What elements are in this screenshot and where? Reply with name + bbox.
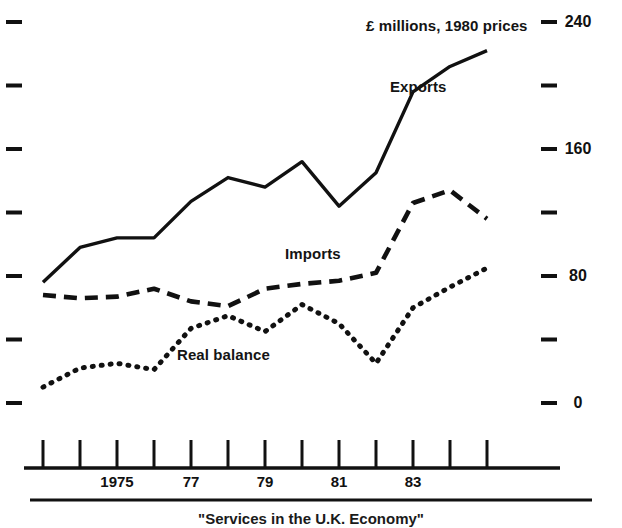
y-axis-label-160: 160 xyxy=(565,141,592,157)
x-axis xyxy=(24,440,560,468)
y-axis-label-0: 0 xyxy=(574,395,583,411)
x-axis-label-1981: 81 xyxy=(331,474,348,489)
units-label: £ millions, 1980 prices xyxy=(366,18,528,33)
chart-plot-area xyxy=(0,0,622,528)
chart-figure: £ millions, 1980 prices Exports Imports … xyxy=(0,0,622,528)
y-axis-left-ticks xyxy=(6,22,22,403)
y-axis-right-ticks xyxy=(541,22,557,403)
x-axis-label-1975: 1975 xyxy=(100,474,133,489)
series-label-real-balance: Real balance xyxy=(177,347,270,362)
x-axis-label-1983: 83 xyxy=(405,474,422,489)
figure-caption: "Services in the U.K. Economy" xyxy=(0,510,622,527)
series-label-imports: Imports xyxy=(285,246,341,261)
y-axis-label-80: 80 xyxy=(569,268,587,284)
x-axis-label-1977: 77 xyxy=(183,474,200,489)
series-label-exports: Exports xyxy=(390,79,447,94)
data-series-group xyxy=(43,51,487,388)
series-line-imports xyxy=(43,190,487,306)
y-axis-label-240: 240 xyxy=(565,14,592,30)
x-axis-label-1979: 79 xyxy=(257,474,274,489)
series-line-real-balance xyxy=(43,268,487,387)
